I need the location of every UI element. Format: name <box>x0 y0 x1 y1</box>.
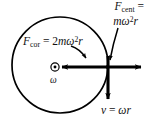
angular-velocity-label: ω <box>50 76 57 86</box>
centrifugal-radius: r <box>134 15 138 27</box>
velocity-label: v = ωr <box>101 104 131 116</box>
centrifugal-mass: m <box>113 15 121 27</box>
coriolis-force-label: Fcor = 2mω2r <box>23 35 83 49</box>
centrifugal-leader-line <box>110 28 118 60</box>
centrifugal-force-label: Fcent = mω2r <box>113 0 144 27</box>
velocity-equals: = <box>106 104 118 116</box>
angular-velocity-symbol: ω <box>50 75 57 85</box>
coriolis-equals: = <box>40 35 52 47</box>
coriolis-radius: r <box>78 35 82 47</box>
omega-out-of-page-icon <box>51 63 59 71</box>
coriolis-subscript: cor <box>30 40 40 49</box>
rotating-frame-circle <box>12 17 108 113</box>
centrifugal-omega: ω <box>122 15 130 27</box>
rotating-frame-physics-diagram: Fcent = mω2r Fcor = 2mω2r ω v = ωr <box>0 0 146 125</box>
centrifugal-subscript: cent <box>122 5 135 14</box>
centrifugal-expression: mω2r <box>113 15 138 27</box>
velocity-radius: r <box>126 104 130 116</box>
coriolis-symbol: F <box>23 35 30 47</box>
centrifugal-symbol: F <box>115 0 122 12</box>
centrifugal-equals: = <box>135 0 144 12</box>
